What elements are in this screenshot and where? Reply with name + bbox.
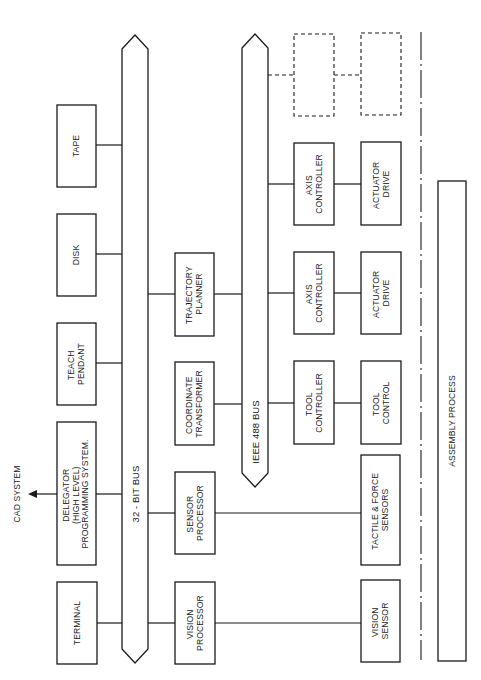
expansion-controller-placeholder <box>294 34 334 116</box>
tool-controller-label-1: TOOL <box>304 392 314 416</box>
delegator-label-3: PROGRAMMING SYSTEM. <box>80 440 90 549</box>
cad-system-link: CAD SYSTEM <box>12 466 57 523</box>
coordinate-transformer-label-1: COORDINATE <box>184 376 194 434</box>
disk-label: DISK <box>71 245 81 266</box>
assembly-process-box: ASSEMBLY PROCESS <box>438 181 466 661</box>
axis-controller-2-label-1: AXIS <box>304 284 314 304</box>
tape-label: TAPE <box>71 135 81 157</box>
delegator-label-1: DELEGATOR <box>61 469 71 522</box>
disk-box: DISK <box>57 214 96 296</box>
svg-text:VISION SENSOR: VISION SENSOR <box>370 603 390 640</box>
cad-system-label: CAD SYSTEM <box>12 466 22 523</box>
bus-32-bit-label: 32 - BIT BUS <box>130 466 141 523</box>
vision-processor-label-2: PROCESSOR <box>195 595 205 651</box>
vision-sensor-label-2: SENSOR <box>380 603 390 640</box>
actuator-drive-1-label-1: ACTUATOR <box>371 162 381 209</box>
vision-sensor-label-1: VISION <box>370 607 380 637</box>
sensor-processor-label-1: SENSOR <box>185 496 195 533</box>
actuator-drive-box-1: ACTUATOR DRIVE <box>361 142 401 225</box>
expansion-device-placeholder <box>361 33 401 115</box>
bus-ieee-label: IEEE 488 BUS <box>250 400 261 464</box>
teach-pendant-box: TEACH PENDANT <box>57 323 96 405</box>
axis-controller-box-2: AXIS CONTROLLER <box>294 252 334 334</box>
tool-controller-label-2: CONTROLLER <box>314 373 324 433</box>
svg-text:DISK: DISK <box>71 245 81 266</box>
trajectory-planner-box: TRAJECTORY PLANNER <box>175 253 214 336</box>
svg-text:TERMINAL: TERMINAL <box>72 601 82 645</box>
bus-32-bit: 32 - BIT BUS <box>122 35 148 663</box>
coordinate-transformer-label-2: TRANSFORMER <box>194 370 204 437</box>
actuator-drive-1-label-2: DRIVE <box>381 170 391 197</box>
tool-controller-box: TOOL CONTROLLER <box>294 361 334 444</box>
vision-sensor-box: VISION SENSOR <box>361 580 400 662</box>
assembly-process-label: ASSEMBLY PROCESS <box>447 375 457 467</box>
sensor-processor-label-2: PROCESSOR <box>195 485 205 541</box>
coordinate-transformer-box: COORDINATE TRANSFORMER <box>175 362 214 445</box>
actuator-drive-box-2: ACTUATOR DRIVE <box>361 252 401 334</box>
axis-controller-box-1: AXIS CONTROLLER <box>294 143 334 225</box>
delegator-box: DELEGATOR (HIGH LEVEL) PROGRAMMING SYSTE… <box>57 422 96 565</box>
tactile-force-sensors-label-1: TACTILE & FORCE <box>370 473 380 550</box>
tape-box: TAPE <box>57 105 96 187</box>
robot-control-architecture-diagram: 32 - BIT BUS IEEE 488 BUS TAPE DISK TEAC… <box>0 0 481 680</box>
svg-text:TEACH PENDANT: TEACH PENDANT <box>66 342 86 384</box>
vision-processor-label-1: VISION <box>185 609 195 639</box>
tactile-force-sensors-box: TACTILE & FORCE SENSORS <box>361 455 400 565</box>
vision-processor-box: VISION PROCESSOR <box>175 582 215 664</box>
svg-text:COORDINATE TRANSFORMER: COORDINATE TRANSFORMER <box>184 370 204 437</box>
axis-controller-1-label-2: CONTROLLER <box>314 154 324 214</box>
axis-controller-2-label-2: CONTROLLER <box>314 263 324 323</box>
tool-control-box: TOOL CONTROL <box>361 361 401 444</box>
actuator-drive-2-label-1: ACTUATOR <box>371 271 381 318</box>
sensor-processor-box: SENSOR PROCESSOR <box>175 472 215 554</box>
tool-control-label-2: CONTROL <box>381 382 391 425</box>
tactile-force-sensors-label-2: SENSORS <box>380 488 390 531</box>
terminal-label: TERMINAL <box>72 601 82 645</box>
actuator-drive-2-label-2: DRIVE <box>381 279 391 306</box>
trajectory-planner-label-1: TRAJECTORY <box>184 266 194 324</box>
teach-pendant-label-1: TEACH <box>66 350 76 380</box>
trajectory-planner-label-2: PLANNER <box>194 273 204 314</box>
teach-pendant-label-2: PENDANT <box>76 342 86 384</box>
arrow-left-icon <box>28 490 37 498</box>
axis-controller-1-label-1: AXIS <box>304 175 314 195</box>
svg-text:SENSOR PROCESSOR: SENSOR PROCESSOR <box>185 485 205 541</box>
terminal-box: TERMINAL <box>57 582 97 664</box>
tool-control-label-1: TOOL <box>371 392 381 416</box>
delegator-label-2: (HIGH LEVEL) <box>71 466 81 524</box>
svg-text:TAPE: TAPE <box>71 135 81 157</box>
bus-ieee-488: IEEE 488 BUS <box>242 34 268 487</box>
